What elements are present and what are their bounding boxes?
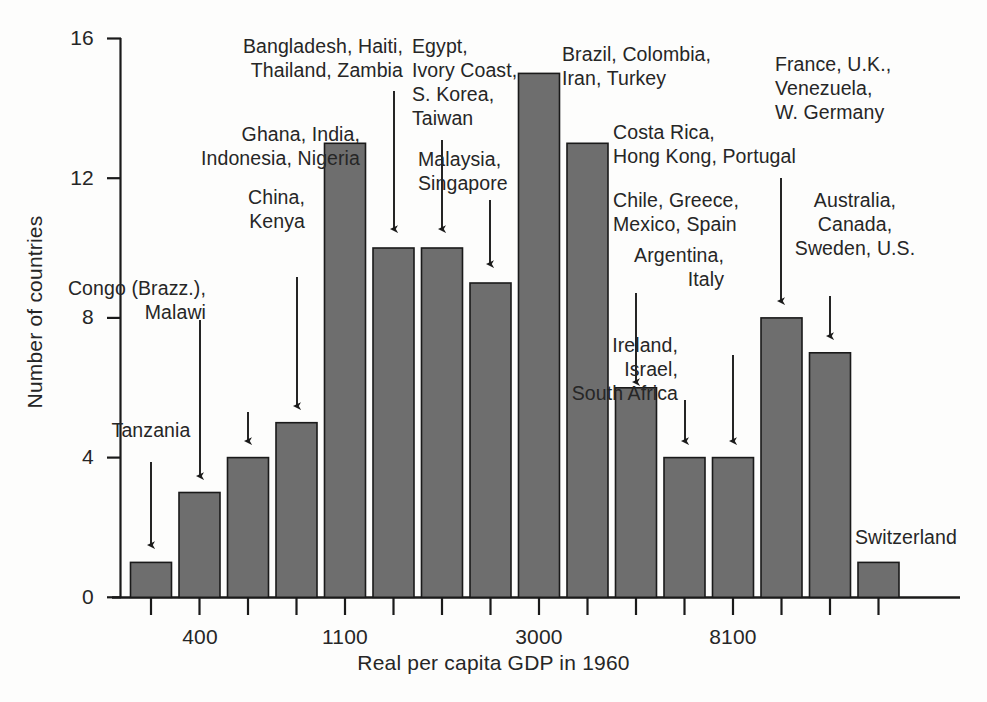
annotation-ireland: Ireland, Israel, South Africa bbox=[520, 333, 678, 405]
bar bbox=[616, 388, 657, 598]
ytick-label-16: 16 bbox=[48, 26, 94, 50]
annotation-costa-rica: Costa Rica, Hong Kong, Portugal bbox=[613, 120, 853, 168]
ytick-label-12: 12 bbox=[48, 166, 94, 190]
annotation-ghana-india: Ghana, India, Indonesia, Nigeria bbox=[120, 122, 360, 170]
annotation-france: France, U.K., Venezuela, W. Germany bbox=[775, 52, 975, 124]
xtick-label-8100: 8100 bbox=[688, 625, 778, 649]
annotation-tanzania: Tanzania bbox=[66, 418, 236, 442]
annotation-egypt: Egypt, Ivory Coast, S. Korea, Taiwan bbox=[412, 34, 562, 130]
bar bbox=[664, 458, 705, 598]
xtick-label-3000: 3000 bbox=[494, 625, 584, 649]
x-axis-title: Real per capita GDP in 1960 bbox=[0, 651, 987, 675]
bar bbox=[470, 283, 511, 597]
annotation-china-kenya: China, Kenya bbox=[160, 185, 305, 233]
bar bbox=[131, 562, 172, 597]
bar bbox=[761, 318, 802, 597]
bar bbox=[179, 493, 220, 598]
xtick-label-1100: 1100 bbox=[300, 625, 390, 649]
annotation-bangladesh: Bangladesh, Haiti, Thailand, Zambia bbox=[175, 34, 403, 82]
bar bbox=[713, 458, 754, 598]
plot-area: 16 12 8 4 0 400 1100 3000 8100 Real per … bbox=[0, 0, 987, 702]
annotation-australia: Australia, Canada, Sweden, U.S. bbox=[760, 188, 950, 260]
annotation-brazil: Brazil, Colombia, Iran, Turkey bbox=[562, 42, 772, 90]
ytick-label-4: 4 bbox=[48, 445, 94, 469]
bar bbox=[810, 353, 851, 598]
x-axis-ticks bbox=[151, 598, 879, 615]
annotation-argentina: Argentina, Italy bbox=[576, 243, 724, 291]
ytick-label-0: 0 bbox=[48, 585, 94, 609]
xtick-label-400: 400 bbox=[155, 625, 245, 649]
annotation-switzerland: Switzerland bbox=[855, 525, 987, 549]
bar bbox=[858, 562, 899, 597]
histogram-figure: 16 12 8 4 0 400 1100 3000 8100 Real per … bbox=[0, 0, 987, 702]
bar bbox=[276, 423, 317, 598]
bar bbox=[228, 458, 269, 598]
bar bbox=[422, 248, 463, 597]
bar bbox=[373, 248, 414, 597]
annotation-malaysia: Malaysia, Singapore bbox=[418, 147, 558, 195]
bar bbox=[325, 143, 366, 597]
annotation-congo-malawi: Congo (Brazz.), Malawi bbox=[20, 276, 206, 324]
